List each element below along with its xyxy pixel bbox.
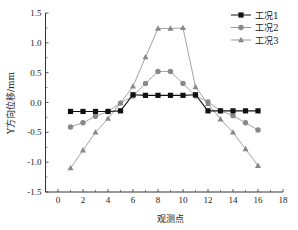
data-point <box>193 92 198 97</box>
data-point <box>180 25 186 30</box>
legend: 工况1工况2工况3 <box>231 11 279 46</box>
data-point <box>255 108 260 113</box>
x-tick-label: 10 <box>179 195 189 205</box>
x-tick-label: 16 <box>254 195 264 205</box>
legend-item: 工况2 <box>231 23 279 33</box>
data-point <box>130 92 135 97</box>
legend-marker <box>238 25 243 30</box>
data-point <box>143 81 148 86</box>
y-tick-label: -1.5 <box>27 187 42 197</box>
x-tick-label: 2 <box>81 195 86 205</box>
data-point <box>155 69 160 74</box>
legend-label: 工况3 <box>255 36 279 46</box>
series-工况2 <box>68 69 261 133</box>
legend-label: 工况2 <box>255 23 279 33</box>
data-point <box>205 99 210 104</box>
x-tick-label: 8 <box>156 195 161 205</box>
x-tick-label: 4 <box>106 195 111 205</box>
data-point <box>105 109 110 114</box>
x-tick-label: 14 <box>229 195 239 205</box>
data-point <box>180 81 185 86</box>
series-line <box>71 28 259 168</box>
data-point <box>193 84 199 89</box>
x-tick-label: 12 <box>204 195 213 205</box>
line-chart: -1.5-1.0-0.50.00.51.01.5024681012141618 … <box>0 0 298 230</box>
data-point <box>143 54 149 59</box>
data-point <box>243 120 248 125</box>
legend-marker <box>238 12 243 17</box>
series-line <box>71 95 259 112</box>
data-point <box>180 93 185 98</box>
data-point <box>155 93 160 98</box>
data-point <box>168 93 173 98</box>
data-point <box>130 83 136 88</box>
data-point <box>80 109 85 114</box>
legend-item: 工况3 <box>231 36 279 46</box>
x-tick-label: 18 <box>279 195 289 205</box>
x-tick-label: 0 <box>56 195 61 205</box>
series-工况1 <box>68 92 261 114</box>
data-point <box>155 25 161 30</box>
data-point <box>93 114 98 119</box>
y-tick-label: 0.0 <box>30 98 42 108</box>
series-工况3 <box>68 25 262 171</box>
data-point <box>205 108 210 113</box>
data-point <box>68 124 73 129</box>
legend-label: 工况1 <box>255 11 279 21</box>
data-point <box>255 127 260 132</box>
data-point <box>143 93 148 98</box>
y-tick-label: 1.0 <box>30 38 42 48</box>
data-point <box>68 109 73 114</box>
x-tick-label: 6 <box>131 195 136 205</box>
y-tick-label: -1.0 <box>27 157 42 167</box>
data-point <box>118 100 123 105</box>
y-axis-title: Y方向位移/mm <box>5 72 16 136</box>
data-point <box>230 113 235 118</box>
y-tick-label: -0.5 <box>27 127 42 137</box>
y-tick-label: 1.5 <box>30 8 42 18</box>
data-point <box>118 108 123 113</box>
data-point <box>218 108 223 113</box>
series-line <box>71 71 259 129</box>
legend-item: 工况1 <box>231 11 279 21</box>
y-tick-label: 0.5 <box>30 68 42 78</box>
data-point <box>80 120 85 125</box>
x-axis-title: 观测点 <box>157 214 184 224</box>
axes: -1.5-1.0-0.50.00.51.01.5024681012141618 <box>27 8 288 205</box>
series-layer <box>68 25 262 171</box>
data-point <box>93 109 98 114</box>
data-point <box>168 69 173 74</box>
data-point <box>243 108 248 113</box>
data-point <box>230 108 235 113</box>
